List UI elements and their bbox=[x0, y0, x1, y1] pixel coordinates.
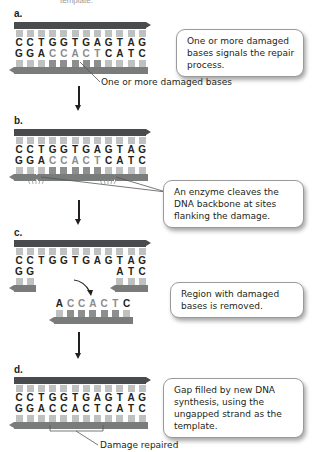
bracket-label-d: Damage repaired bbox=[100, 440, 178, 450]
repair-bracket bbox=[0, 0, 317, 452]
